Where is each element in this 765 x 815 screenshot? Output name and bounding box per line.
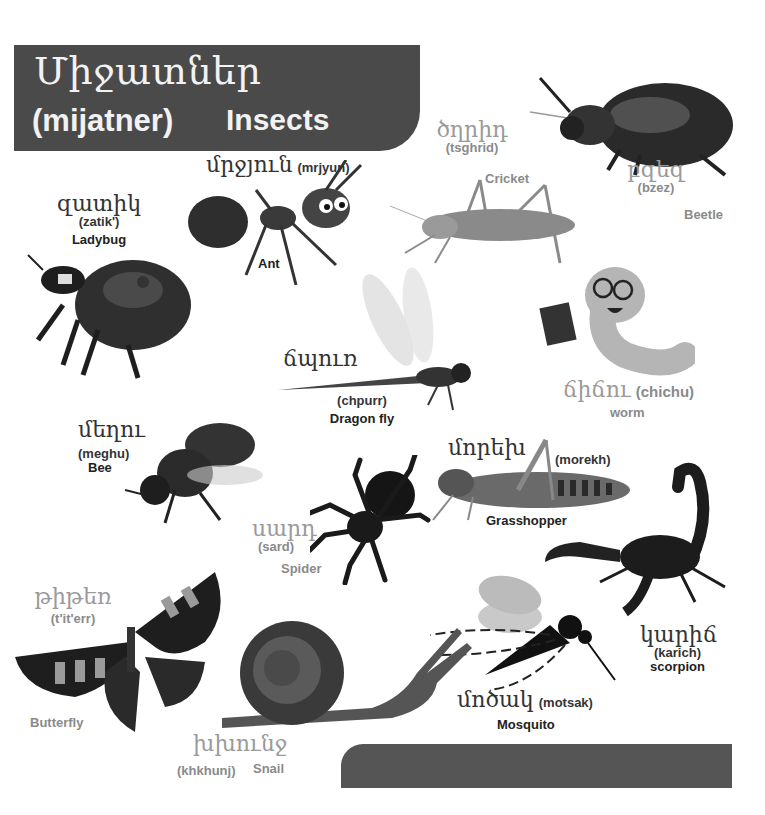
ladybug-illustration bbox=[18, 250, 193, 380]
label-group-mosquito: մոծակ (motsak) bbox=[457, 688, 593, 711]
ladybug-english: Ladybug bbox=[44, 233, 154, 247]
snail-illustration bbox=[222, 618, 472, 733]
butterfly-armenian: թիթեռ bbox=[28, 585, 118, 608]
spider-transliteration: (sard) bbox=[252, 540, 317, 554]
worm-illustration bbox=[535, 260, 695, 380]
ladybug-transliteration: (zatik') bbox=[44, 215, 154, 229]
label-group-butterfly: թիթեռ (t'it'err) bbox=[28, 585, 118, 626]
snail-english: Snail bbox=[253, 762, 284, 776]
spider-illustration bbox=[310, 455, 440, 585]
ladybug-armenian: զատիկ bbox=[44, 192, 154, 215]
cricket-armenian: ծղրիդ bbox=[432, 118, 512, 141]
scorpion-english: scorpion bbox=[640, 660, 715, 674]
ant-english: Ant bbox=[258, 257, 280, 271]
scorpion-transliteration: (karich) bbox=[640, 646, 715, 660]
footer-bar bbox=[341, 744, 732, 788]
bee-transliteration: (meghu) bbox=[78, 447, 145, 461]
butterfly-english: Butterfly bbox=[30, 716, 83, 730]
label-group-spider: սարդ (sard) bbox=[252, 517, 317, 554]
grasshopper-armenian: մորեխ bbox=[448, 436, 526, 459]
mosquito-transliteration: (motsak) bbox=[539, 695, 593, 710]
ant-transliteration: (mrjyun) bbox=[297, 160, 349, 175]
butterfly-transliteration: (t'it'err) bbox=[28, 612, 118, 626]
snail-transliteration: (khkhunj) bbox=[177, 764, 236, 778]
grasshopper-english: Grasshopper bbox=[486, 514, 567, 528]
worm-english: worm bbox=[610, 406, 645, 420]
label-group-ladybug: զատիկ (zatik') Ladybug bbox=[44, 192, 154, 246]
dragonfly-transliteration: (chpurr) bbox=[322, 394, 402, 408]
label-group-dragonfly: (chpurr) Dragon fly bbox=[322, 394, 402, 425]
worm-transliteration: (chichu) bbox=[636, 383, 694, 400]
ant-armenian: մրջյուն bbox=[206, 152, 292, 177]
spider-english: Spider bbox=[281, 562, 321, 576]
beetle-english: Beetle bbox=[684, 208, 723, 222]
bee-armenian: մեղու bbox=[78, 418, 145, 441]
title-armenian: Միջատներ bbox=[34, 49, 261, 93]
beetle-armenian: բզեզ bbox=[626, 158, 686, 181]
spider-armenian: սարդ bbox=[252, 517, 317, 540]
mosquito-armenian: մոծակ bbox=[457, 687, 534, 712]
title-banner: Միջատներ (mijatner) Insects bbox=[14, 45, 420, 151]
cricket-transliteration: (tsghrid) bbox=[432, 141, 512, 155]
label-group-scorpion: կարիճ (karich) scorpion bbox=[640, 623, 715, 673]
grasshopper-transliteration: (morekh) bbox=[555, 453, 611, 467]
label-group-cricket: ծղրիդ (tsghrid) bbox=[432, 118, 512, 155]
cricket-english: Cricket bbox=[485, 172, 529, 186]
label-group-bee: մեղու (meghu) Bee bbox=[78, 418, 145, 474]
label-group-worm: ճիճու (chichu) bbox=[563, 378, 694, 401]
scorpion-armenian: կարիճ bbox=[640, 623, 715, 646]
dragonfly-armenian: ճպուռ bbox=[283, 347, 357, 370]
label-group-ant: մրջյուն (mrjyun) bbox=[206, 153, 349, 176]
beetle-transliteration: (bzez) bbox=[626, 181, 686, 195]
bee-illustration bbox=[125, 405, 265, 525]
snail-armenian: խխունջ bbox=[193, 732, 287, 755]
title-english: Insects bbox=[226, 103, 329, 137]
label-group-beetle: բզեզ (bzez) bbox=[626, 158, 686, 195]
bee-english: Bee bbox=[78, 461, 145, 475]
title-transliteration: (mijatner) bbox=[32, 103, 173, 139]
dragonfly-english: Dragon fly bbox=[322, 412, 402, 426]
worm-armenian: ճիճու bbox=[563, 377, 631, 402]
mosquito-english: Mosquito bbox=[497, 718, 555, 732]
